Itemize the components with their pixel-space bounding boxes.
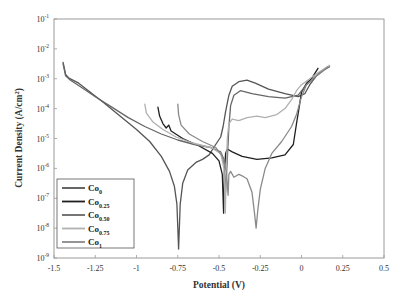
- y-axis-title: Current Density (A/cm2): [13, 88, 26, 188]
- y-tick-label: 10-5: [36, 133, 49, 144]
- x-tick-label: 0.5: [379, 264, 389, 273]
- x-tick-label: 0: [300, 264, 304, 273]
- x-tick-label: -1.5: [48, 264, 61, 273]
- legend: Co0Co0.25Co0.50Co0.75Co1: [57, 179, 134, 249]
- y-tick-label: 10-3: [36, 73, 49, 84]
- y-tick-label: 10-7: [36, 192, 49, 203]
- polarization-chart: -1.5-1.25-1-0.75-0.5-0.2500.250.5 10-110…: [0, 0, 408, 300]
- y-tick-label: 10-8: [36, 222, 49, 233]
- x-axis-title: Potential (V): [193, 280, 245, 291]
- x-tick-label: -0.75: [169, 264, 186, 273]
- x-tick-label: -0.25: [252, 264, 269, 273]
- x-tick-label: -0.5: [213, 264, 226, 273]
- y-tick-label: 10-2: [36, 43, 49, 54]
- y-tick-label: 10-1: [36, 13, 49, 24]
- y-tick-label: 10-6: [36, 162, 49, 173]
- y-tick-label: 10-9: [36, 252, 49, 263]
- x-tick-label: -1.25: [87, 264, 104, 273]
- x-tick-label: 0.25: [336, 264, 350, 273]
- x-tick-label: -1: [133, 264, 140, 273]
- y-tick-label: 10-4: [36, 103, 49, 114]
